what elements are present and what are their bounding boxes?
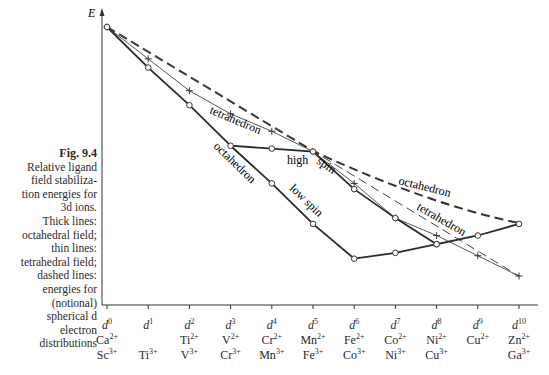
circle-marker-icon (269, 181, 275, 187)
plus-marker-icon (268, 128, 275, 135)
plus-marker-icon (433, 232, 440, 239)
data-markers (104, 24, 523, 280)
category-label: d7Co2+Ni3+ (373, 318, 417, 363)
category-label: d4Cr2+Mn3+ (250, 318, 294, 363)
circle-marker-icon (434, 241, 440, 247)
category-label: d1 Ti3+ (126, 318, 170, 363)
plus-marker-icon (474, 252, 481, 259)
circle-marker-icon (104, 24, 110, 30)
label-octahedron-dashed: octahedron (397, 173, 452, 199)
category-label: d9Cu2+ (456, 318, 500, 363)
circle-marker-icon (269, 146, 275, 152)
dashed-octahedron-line (107, 27, 519, 223)
category-label: d0Ca2+Sc3+ (85, 318, 129, 363)
plus-marker-icon (516, 273, 523, 280)
circle-marker-icon (351, 186, 357, 192)
circle-marker-icon (310, 149, 316, 155)
label-low-spin: low spin (287, 181, 326, 220)
circle-marker-icon (475, 233, 481, 239)
category-label: d10Zn2+Ga3+ (497, 318, 541, 363)
category-label: d3V2+Cr3+ (209, 318, 253, 363)
circle-marker-icon (393, 215, 399, 221)
y-axis-label: E (87, 6, 96, 20)
category-label: d2Ti2+V3+ (167, 318, 211, 363)
circle-marker-icon (310, 221, 316, 227)
category-label: d8Ni2+Cu3+ (415, 318, 459, 363)
y-axis-arrow-icon (100, 8, 105, 16)
circle-marker-icon (145, 65, 151, 71)
label-tetrahedron-dashed: tetrahedron (415, 199, 469, 238)
label-high: high (287, 153, 308, 167)
x-ticks (107, 305, 519, 309)
circle-marker-icon (351, 256, 357, 262)
category-label: d5Mn2+Fe3+ (291, 318, 335, 363)
circle-marker-icon (187, 102, 193, 108)
circle-marker-icon (393, 250, 399, 256)
circle-marker-icon (516, 221, 522, 227)
category-label: d6Fe2+Co3+ (332, 318, 376, 363)
